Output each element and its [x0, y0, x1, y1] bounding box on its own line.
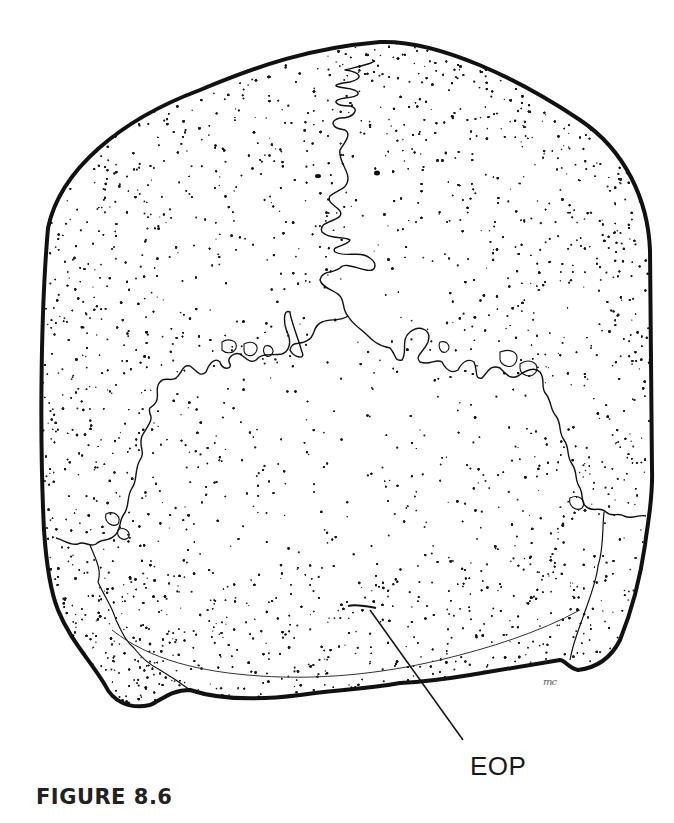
right-lambdoid-suture: [348, 316, 646, 517]
parietal-foramen: [315, 174, 321, 178]
skull-outline: [41, 42, 652, 706]
eop-label: EOP: [470, 751, 526, 782]
sagittal-suture: [320, 60, 375, 316]
left-lambdoid-suture: [56, 311, 348, 545]
right-occipitomastoid-line: [570, 512, 604, 660]
figure-caption: FIGURE 8.6: [36, 785, 172, 809]
parietal-foramen: [374, 171, 380, 176]
figure-container: EOP mc FIGURE 8.6: [0, 0, 674, 823]
skull-illustration: [0, 0, 674, 823]
eop-leader-line: [370, 610, 463, 740]
artist-signature: mc: [543, 676, 556, 687]
eop-marker: [348, 605, 376, 608]
suture-islands: [106, 340, 584, 539]
